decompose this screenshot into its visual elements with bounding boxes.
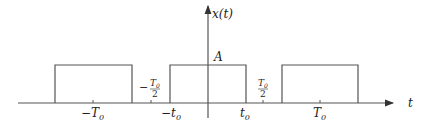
label-neg-T0: −T0 <box>81 106 104 122</box>
y-axis-label: x(t) <box>212 7 233 21</box>
pulse-left <box>55 65 132 103</box>
x-axis-label: t <box>408 96 413 110</box>
label-t0: t0 <box>240 106 250 122</box>
label-neg-half-T0-minus: − <box>139 81 148 94</box>
label-neg-half-T0-den: 2 <box>152 89 158 99</box>
label-neg-t0: −t0 <box>161 106 181 122</box>
label-half-T0-den: 2 <box>260 89 266 99</box>
label-half-T0-num: T0 <box>258 78 268 89</box>
label-T0: T0 <box>313 106 326 122</box>
amplitude-label: A <box>213 50 223 64</box>
label-neg-half-T0-num: T0 <box>150 78 160 89</box>
pulse-right <box>282 65 358 103</box>
pulse-train-diagram: x(t) t A −T0 − T0 2 −t0 t0 T0 2 T0 <box>0 0 427 125</box>
diagram-canvas: x(t) t A −T0 − T0 2 −t0 t0 T0 2 T0 <box>0 0 427 125</box>
